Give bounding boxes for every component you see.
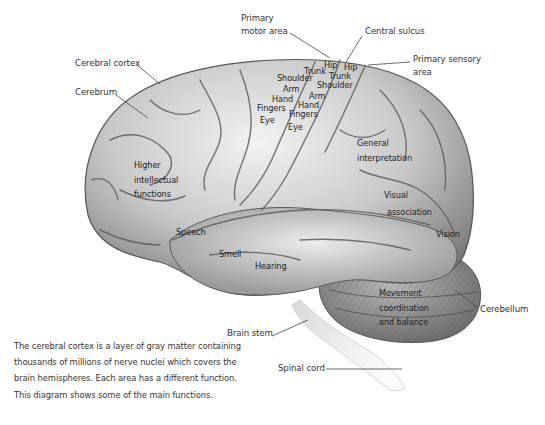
region-movement-coordination: Movement coordination and balance: [379, 286, 429, 330]
sensory-fingers: Fingers: [289, 109, 318, 120]
label-line: interpretation: [357, 151, 412, 166]
label-line: intellectual: [134, 173, 178, 188]
label-primary-motor-area: Primary motor area: [241, 12, 288, 38]
motor-fingers: Fingers: [257, 103, 286, 114]
label-line: Primary sensory: [413, 53, 481, 66]
region-visual-association: Visual association: [384, 187, 432, 221]
label-line: General: [357, 136, 412, 151]
label-central-sulcus: Central sulcus: [365, 25, 425, 38]
region-vision: Vision: [436, 229, 460, 240]
label-line: area: [413, 66, 481, 79]
sensory-eye: Eye: [288, 122, 303, 133]
label-line: Primary: [241, 12, 288, 25]
label-primary-sensory-area: Primary sensory area: [413, 53, 481, 79]
region-general-interpretation: General interpretation: [357, 136, 412, 166]
label-line: coordination: [379, 301, 429, 316]
region-higher-intellectual: Higher intellectual functions: [134, 158, 178, 202]
label-spinal-cord: Spinal cord: [278, 362, 325, 375]
label-cerebrum: Cerebrum: [75, 86, 117, 99]
region-speech: Speech: [176, 227, 206, 238]
label-line: Movement: [379, 286, 429, 301]
caption-text: The cerebral cortex is a layer of gray m…: [14, 338, 254, 403]
region-smell: Smell: [219, 249, 241, 260]
label-cerebellum: Cerebellum: [480, 303, 528, 316]
motor-eye: Eye: [260, 115, 275, 126]
label-line: Higher: [134, 158, 178, 173]
label-line: association: [384, 204, 432, 221]
label-cerebral-cortex: Cerebral cortex: [75, 57, 140, 70]
region-hearing: Hearing: [255, 261, 287, 272]
label-line: and balance: [379, 315, 429, 330]
brain-diagram: Primary motor area Central sulcus Primar…: [0, 0, 545, 425]
sensory-shoulder: Shoulder: [317, 80, 353, 91]
motor-shoulder: Shoulder: [277, 73, 313, 84]
label-line: Visual: [384, 187, 432, 204]
label-line: motor area: [241, 25, 288, 38]
motor-hip: Hip: [324, 60, 337, 71]
label-line: functions: [134, 187, 178, 202]
